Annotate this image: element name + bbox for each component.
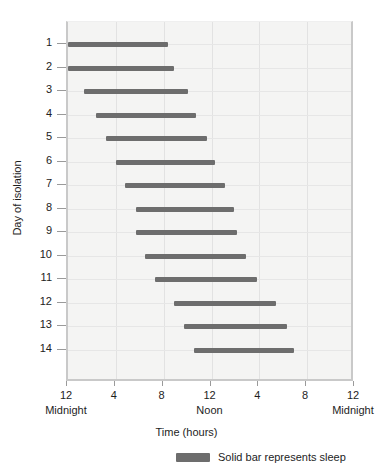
x-tick-sublabel-0: Midnight — [26, 404, 106, 416]
sleep-bar-day-12 — [174, 301, 276, 306]
y-tick-mark — [57, 90, 66, 91]
x-tick-mark — [353, 381, 354, 386]
y-tick-label-1: 1 — [22, 37, 52, 48]
sleep-bar-day-1 — [68, 42, 168, 47]
sleep-bar-day-6 — [116, 160, 215, 165]
y-tick-mark — [57, 278, 66, 279]
y-tick-mark — [57, 302, 66, 303]
y-tick-label-14: 14 — [22, 343, 52, 354]
y-tick-label-9: 9 — [22, 225, 52, 236]
y-tick-label-11: 11 — [22, 272, 52, 283]
x-tick-label-8: 8 — [142, 389, 182, 401]
y-tick-label-10: 10 — [22, 249, 52, 260]
x-tick-mark — [114, 381, 115, 386]
y-tick-mark — [57, 184, 66, 185]
y-tick-label-2: 2 — [22, 61, 52, 72]
y-tick-label-13: 13 — [22, 319, 52, 330]
x-tick-mark — [305, 381, 306, 386]
y-tick-mark — [57, 67, 66, 68]
x-tick-label-16: 4 — [237, 389, 277, 401]
sleep-bar-day-11 — [155, 277, 257, 282]
x-tick-sublabel-24: Midnight — [313, 404, 379, 416]
x-tick-mark — [257, 381, 258, 386]
x-tick-label-20: 8 — [285, 389, 325, 401]
sleep-bar-day-8 — [136, 207, 234, 212]
y-tick-mark — [57, 231, 66, 232]
y-tick-label-7: 7 — [22, 178, 52, 189]
x-tick-mark — [66, 381, 67, 386]
y-tick-mark — [57, 43, 66, 44]
x-tick-label-24: 12 — [333, 389, 373, 401]
y-tick-mark — [57, 208, 66, 209]
y-tick-mark — [57, 349, 66, 350]
sleep-bar-day-7 — [125, 183, 224, 188]
legend-swatch-sleep — [176, 453, 210, 462]
plot-area — [66, 21, 353, 381]
sleep-bar-day-13 — [184, 324, 287, 329]
y-tick-mark — [57, 161, 66, 162]
y-tick-label-8: 8 — [22, 202, 52, 213]
x-tick-mark — [210, 381, 211, 386]
x-tick-label-12: 12 — [190, 389, 230, 401]
x-tick-mark — [162, 381, 163, 386]
y-axis-title: Day of isolation — [11, 133, 23, 263]
y-tick-mark — [57, 325, 66, 326]
sleep-bar-day-3 — [84, 89, 188, 94]
legend: Solid bar represents sleep — [176, 451, 346, 463]
y-tick-label-4: 4 — [22, 108, 52, 119]
x-tick-sublabel-12: Noon — [170, 404, 250, 416]
sleep-bar-day-2 — [68, 66, 174, 71]
y-tick-label-5: 5 — [22, 131, 52, 142]
x-tick-label-0: 12 — [46, 389, 86, 401]
sleep-bar-day-4 — [96, 113, 196, 118]
sleep-bar-day-10 — [145, 254, 247, 259]
sleep-bar-day-5 — [106, 136, 206, 141]
y-tick-mark — [57, 137, 66, 138]
y-tick-label-12: 12 — [22, 296, 52, 307]
y-tick-mark — [57, 255, 66, 256]
y-tick-label-6: 6 — [22, 155, 52, 166]
x-tick-label-4: 4 — [94, 389, 134, 401]
x-axis-title: Time (hours) — [0, 426, 373, 438]
legend-label-sleep: Solid bar represents sleep — [218, 451, 346, 463]
sleep-bar-day-9 — [136, 230, 236, 235]
sleep-bar-day-14 — [194, 348, 294, 353]
y-tick-label-3: 3 — [22, 84, 52, 95]
y-tick-mark — [57, 114, 66, 115]
